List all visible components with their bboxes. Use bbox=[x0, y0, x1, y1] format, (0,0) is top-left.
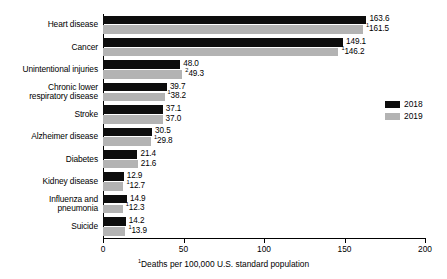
bar-chart: 163.61161.5149.11146.248.0249.339.7138.2… bbox=[0, 0, 447, 279]
x-axis-tick-label: 100 bbox=[257, 244, 271, 254]
bar-group: 30.5129.8 bbox=[103, 126, 425, 148]
bar-2019 bbox=[103, 48, 338, 57]
category-label: Influenza and pneumonia bbox=[49, 195, 98, 214]
bar-value-superscript: 1 bbox=[126, 179, 129, 185]
legend-swatch bbox=[385, 113, 400, 120]
bar-2019 bbox=[103, 93, 165, 102]
bar-2019 bbox=[103, 227, 125, 236]
bar-2019 bbox=[103, 70, 182, 79]
bar-value-superscript: 1 bbox=[366, 22, 369, 28]
bar-2018 bbox=[103, 172, 124, 181]
bar-value-label: 21.6 bbox=[141, 160, 157, 169]
bar-2018 bbox=[103, 150, 137, 159]
bar-value-label: 149.1 bbox=[346, 38, 366, 47]
bar-group: 149.11146.2 bbox=[103, 36, 425, 58]
legend-label: 2018 bbox=[404, 100, 423, 109]
category-label: Suicide bbox=[71, 222, 98, 232]
category-label: Unintentional injuries bbox=[22, 65, 98, 75]
bar-value-label: 249.3 bbox=[185, 70, 204, 79]
bar-group: 14.9112.3 bbox=[103, 193, 425, 215]
bar-2019 bbox=[103, 182, 123, 191]
bar-2019 bbox=[103, 115, 163, 124]
bar-value-superscript: 2 bbox=[185, 67, 188, 73]
x-axis-tick bbox=[103, 239, 104, 243]
bar-value-label: 129.8 bbox=[154, 137, 173, 146]
bar-value-label: 163.6 bbox=[369, 15, 389, 24]
x-axis-tick-label: 0 bbox=[101, 244, 106, 254]
category-label: Alzheimer disease bbox=[31, 132, 98, 142]
category-label: Diabetes bbox=[66, 155, 98, 165]
bar-group: 21.421.6 bbox=[103, 148, 425, 170]
bar-value-label: 39.7 bbox=[170, 83, 186, 92]
x-axis-tick-label: 150 bbox=[338, 244, 352, 254]
bar-2018 bbox=[103, 83, 167, 92]
bar-value-superscript: 1 bbox=[154, 134, 157, 140]
bar-group: 12.9112.7 bbox=[103, 171, 425, 193]
bar-2019 bbox=[103, 25, 363, 34]
bar-2018 bbox=[103, 105, 163, 114]
bar-2019 bbox=[103, 205, 123, 214]
bar-value-label: 14.9 bbox=[130, 195, 146, 204]
bar-value-superscript: 1 bbox=[168, 90, 171, 96]
bar-2019 bbox=[103, 137, 151, 146]
x-axis-title-text: Deaths per 100,000 U.S. standard populat… bbox=[141, 259, 309, 269]
bar-value-label: 1161.5 bbox=[366, 25, 389, 34]
bar-value-label: 30.5 bbox=[155, 127, 171, 136]
bar-2019 bbox=[103, 160, 138, 169]
bar-value-label: 112.3 bbox=[126, 204, 145, 213]
x-axis-title: 1Deaths per 100,000 U.S. standard popula… bbox=[0, 259, 447, 269]
bar-value-label: 21.4 bbox=[140, 150, 156, 159]
x-axis-tick bbox=[184, 239, 185, 243]
legend-swatch bbox=[385, 101, 400, 108]
bar-2018 bbox=[103, 128, 152, 137]
legend: 20182019 bbox=[385, 99, 423, 123]
bar-value-label: 113.9 bbox=[128, 227, 147, 236]
bar-group: 14.2113.9 bbox=[103, 216, 425, 238]
plot-area: 163.61161.5149.11146.248.0249.339.7138.2… bbox=[103, 14, 425, 238]
x-axis-tick-label: 50 bbox=[179, 244, 188, 254]
bar-value-label: 37.1 bbox=[166, 105, 182, 114]
x-axis-tick bbox=[345, 239, 346, 243]
x-axis-tick bbox=[425, 239, 426, 243]
bar-group: 39.7138.2 bbox=[103, 81, 425, 103]
bar-value-label: 112.7 bbox=[126, 182, 145, 191]
bar-2018 bbox=[103, 38, 343, 47]
legend-item: 2019 bbox=[385, 111, 423, 121]
bar-value-label: 1146.2 bbox=[341, 48, 364, 57]
bar-2018 bbox=[103, 16, 366, 25]
bar-value-label: 138.2 bbox=[168, 92, 187, 101]
x-axis-tick-label: 200 bbox=[418, 244, 432, 254]
bar-2018 bbox=[103, 60, 180, 69]
bar-group: 37.137.0 bbox=[103, 104, 425, 126]
bar-value-superscript: 1 bbox=[128, 224, 131, 230]
category-label: Heart disease bbox=[48, 20, 98, 30]
bar-value-superscript: 1 bbox=[341, 45, 344, 51]
category-label: Chronic lower respiratory disease bbox=[29, 83, 98, 102]
bar-group: 48.0249.3 bbox=[103, 59, 425, 81]
bar-2018 bbox=[103, 217, 126, 226]
legend-label: 2019 bbox=[404, 112, 423, 121]
legend-item: 2018 bbox=[385, 99, 423, 109]
category-label: Kidney disease bbox=[43, 177, 98, 187]
category-label: Stroke bbox=[74, 110, 98, 120]
x-axis-tick bbox=[264, 239, 265, 243]
bar-value-superscript: 1 bbox=[126, 202, 129, 208]
bar-value-label: 37.0 bbox=[166, 115, 182, 124]
bar-2018 bbox=[103, 195, 127, 204]
category-label: Cancer bbox=[72, 43, 98, 53]
bar-group: 163.61161.5 bbox=[103, 14, 425, 36]
